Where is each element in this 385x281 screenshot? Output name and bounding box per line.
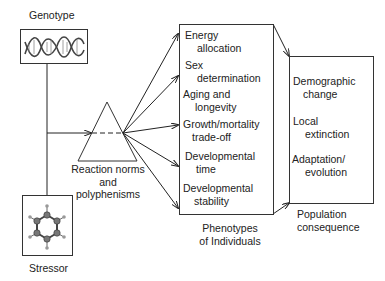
population-item: Localextinction	[293, 115, 349, 141]
phenotype-item: Developmentaltime	[185, 150, 255, 176]
phenotype-item: Energyallocation	[185, 29, 241, 55]
top-link-arrow	[273, 24, 289, 56]
population-caption: Population consequence	[297, 208, 359, 233]
benzene-molecule-icon	[23, 196, 72, 255]
reaction-norm-triangle	[78, 102, 137, 161]
genotype-label: Genotype	[29, 9, 75, 22]
phenotype-item: Growth/mortalitytrade-off	[183, 118, 259, 144]
population-item: Demographicchange	[293, 75, 355, 101]
reaction-line-1: Reaction norms	[68, 163, 148, 176]
reaction-norms-label: Reaction norms and polyphenisms	[68, 163, 148, 201]
reaction-line-2: and	[68, 176, 148, 189]
phenotype-item: Developmentalstability	[183, 182, 253, 208]
reaction-line-3: polyphenisms	[68, 188, 148, 201]
stressor-box	[22, 195, 73, 256]
stressor-label: Stressor	[29, 262, 68, 275]
phenotype-item: Aging andlongevity	[183, 88, 236, 114]
population-item: Adaptation/evolution	[292, 153, 347, 179]
bottom-link-arrow	[273, 203, 289, 214]
phenotypes-caption: Phenotypes of Individuals	[190, 222, 270, 247]
dna-helix-icon	[21, 30, 87, 63]
genotype-box	[20, 29, 88, 64]
phenotype-item: Sexdetermination	[185, 59, 261, 85]
